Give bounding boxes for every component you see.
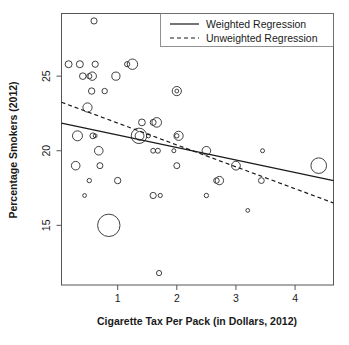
y-tick-label: 15 — [40, 219, 52, 231]
y-tick-label: 20 — [40, 145, 52, 157]
legend-label-weighted: Weighted Regression — [206, 18, 306, 30]
legend-label-unweighted: Unweighted Regression — [206, 32, 318, 44]
scatter-plot-figure: 152025 1234 Weighted Regression Unweight… — [0, 0, 349, 345]
y-tick-label: 25 — [40, 70, 52, 82]
x-tick-label: 4 — [292, 292, 298, 304]
x-axis-title: Cigarette Tax Per Pack (in Dollars, 2012… — [97, 315, 297, 327]
x-tick-label: 2 — [174, 292, 180, 304]
x-tick-label: 3 — [233, 292, 239, 304]
chart-canvas: 152025 1234 Weighted Regression Unweight… — [0, 0, 349, 345]
x-tick-label: 1 — [115, 292, 121, 304]
y-axis-title: Percentage Smokers (2012) — [7, 81, 19, 218]
